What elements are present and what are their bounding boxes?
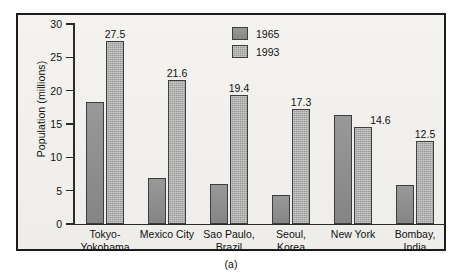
x-axis-label-line: Bombay, (376, 228, 454, 241)
bar-value-label: 12.5 (415, 128, 435, 140)
bar-1993-3: 19.4 (230, 95, 248, 224)
figure-caption: (a) (0, 258, 462, 270)
y-axis-title: Population (millions) (35, 24, 47, 194)
bar-value-label: 27.5 (105, 28, 125, 40)
y-axis-tick (66, 157, 73, 159)
bar-1965-5 (334, 115, 352, 224)
legend-swatch-1993 (232, 45, 248, 58)
bar-value-label: 17.3 (291, 96, 311, 108)
bar-1993-5: 14.6 (354, 127, 372, 224)
y-axis-tick (66, 90, 73, 92)
bar-1965-2 (148, 178, 166, 224)
x-axis-label-line: Korea (252, 241, 330, 254)
y-axis-tick (66, 190, 73, 192)
bar-1993-2: 21.6 (168, 80, 186, 224)
legend-item-1965: 1965 (232, 27, 279, 40)
chart-legend: 1965 1993 (232, 27, 279, 58)
bar-1965-6 (396, 185, 414, 224)
bar-1965-3 (210, 184, 228, 224)
bar-1993-4: 17.3 (292, 109, 310, 224)
bar-1993-6: 12.5 (416, 141, 434, 224)
legend-label-1965: 1965 (256, 28, 279, 40)
y-axis-tick-label: 10 (18, 151, 62, 163)
x-axis-label-6: Bombay,India (376, 228, 454, 253)
bar-value-label: 21.6 (167, 67, 187, 79)
y-axis-tick-label: 20 (18, 85, 62, 97)
chart-frame: Population (millions) 051015202530 27.52… (16, 13, 446, 251)
bar-1993-1: 27.5 (106, 41, 124, 224)
y-axis-tick-label: 30 (18, 18, 62, 30)
bar-value-label: 14.6 (370, 114, 390, 126)
y-axis-tick-label: 5 (18, 185, 62, 197)
x-axis-label-line: India (376, 241, 454, 254)
y-axis-tick (66, 23, 73, 25)
legend-item-1993: 1993 (232, 45, 279, 58)
y-axis-tick (66, 223, 73, 225)
y-axis-tick (66, 123, 73, 125)
y-axis-tick (66, 57, 73, 59)
x-axis-label-line: Yokohama (66, 241, 144, 254)
legend-swatch-1965 (232, 27, 248, 40)
legend-label-1993: 1993 (256, 46, 279, 58)
y-axis-tick-label: 25 (18, 51, 62, 63)
y-axis-tick-label: 15 (18, 118, 62, 130)
bar-1965-4 (272, 195, 290, 224)
figure-container: Population (millions) 051015202530 27.52… (0, 0, 462, 279)
bar-1965-1 (86, 102, 104, 224)
bar-value-label: 19.4 (229, 82, 249, 94)
y-axis-tick-label: 0 (18, 218, 62, 230)
